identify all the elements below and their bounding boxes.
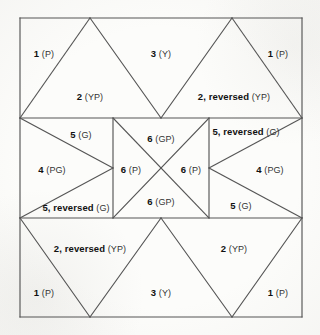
- block-seam-line: [232, 218, 302, 317]
- piece-number: 5, reversed: [212, 126, 263, 137]
- piece-label-center-left: 6 (P): [121, 160, 141, 176]
- piece-fabric-code: (P): [273, 288, 288, 298]
- piece-fabric-code: (G): [94, 203, 110, 213]
- piece-label-mid-right-upper: 5, reversed (G): [212, 122, 279, 138]
- piece-fabric-code: (P): [39, 288, 54, 298]
- piece-label-top-left-corner: 1 (P): [34, 44, 54, 60]
- piece-fabric-code: (GP): [153, 197, 175, 207]
- block-seam-line: [20, 118, 113, 168]
- piece-fabric-code: (PG): [262, 165, 284, 175]
- piece-label-mid-right-lower: 5 (G): [230, 196, 251, 212]
- block-seam-line: [161, 218, 232, 317]
- block-seam-line: [90, 18, 161, 118]
- piece-fabric-code: (Y): [156, 49, 171, 59]
- piece-fabric-code: (YP): [105, 244, 126, 254]
- block-seam-line: [90, 218, 161, 317]
- piece-label-bottom-right-corner: 1 (P): [268, 283, 288, 299]
- piece-label-center-bottom: 6 (GP): [147, 192, 174, 208]
- piece-fabric-code: (PG): [44, 165, 66, 175]
- piece-number: 2, reversed: [54, 243, 105, 254]
- piece-fabric-code: (G): [236, 201, 252, 211]
- block-seam-line: [161, 18, 232, 118]
- piece-label-top-right-corner: 1 (P): [268, 44, 288, 60]
- piece-label-top-right-triangle: 2, reversed (YP): [198, 87, 270, 103]
- piece-label-mid-left-lower: 5, reversed (G): [42, 198, 109, 214]
- piece-fabric-code: (YP): [82, 92, 103, 102]
- block-seam-line: [20, 218, 90, 317]
- piece-label-center-right: 6 (P): [181, 160, 201, 176]
- piece-fabric-code: (P): [273, 49, 288, 59]
- piece-number: 2, reversed: [198, 91, 249, 102]
- piece-label-mid-left-point: 4 (PG): [38, 160, 65, 176]
- piece-label-top-left-triangle: 2 (YP): [77, 87, 103, 103]
- piece-label-bottom-left-triangle: 2, reversed (YP): [54, 239, 126, 255]
- piece-fabric-code: (P): [186, 165, 201, 175]
- piece-label-bottom-middle: 3 (Y): [151, 283, 171, 299]
- piece-number: 5, reversed: [42, 202, 93, 213]
- block-seam-line: [232, 18, 302, 118]
- piece-label-mid-left-upper: 5 (G): [70, 125, 91, 141]
- piece-fabric-code: (G): [76, 130, 92, 140]
- piece-label-bottom-left-corner: 1 (P): [34, 283, 54, 299]
- piece-fabric-code: (YP): [249, 92, 270, 102]
- piece-fabric-code: (G): [264, 127, 280, 137]
- piece-fabric-code: (GP): [153, 134, 175, 144]
- quilt-block-diagram: 1 (P)2 (YP)3 (Y)2, reversed (YP)1 (P)5 (…: [0, 0, 320, 335]
- piece-label-center-top: 6 (GP): [147, 129, 174, 145]
- piece-label-mid-right-point: 4 (PG): [256, 160, 283, 176]
- piece-fabric-code: (Y): [156, 288, 171, 298]
- piece-label-bottom-right-triangle: 2 (YP): [221, 239, 247, 255]
- piece-fabric-code: (YP): [226, 244, 247, 254]
- piece-fabric-code: (P): [39, 49, 54, 59]
- piece-fabric-code: (P): [126, 165, 141, 175]
- piece-label-top-middle: 3 (Y): [151, 44, 171, 60]
- block-seam-line: [20, 18, 90, 118]
